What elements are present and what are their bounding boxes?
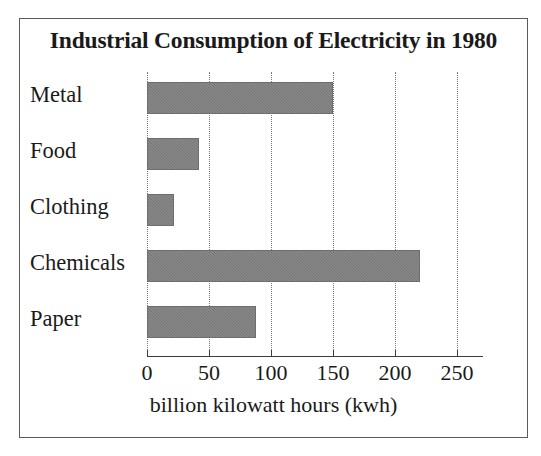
gridline-250	[457, 72, 458, 356]
x-tick-150	[333, 350, 334, 356]
chart-title: Industrial Consumption of Electricity in…	[19, 27, 528, 54]
x-tick-label-200: 200	[360, 360, 430, 386]
category-label-chemicals: Chemicals	[30, 250, 125, 276]
bar-clothing	[147, 194, 174, 226]
x-tick-50	[209, 350, 210, 356]
category-label-food: Food	[30, 138, 76, 164]
category-label-paper: Paper	[30, 306, 81, 332]
bar-food	[147, 138, 199, 170]
x-tick-0	[147, 350, 148, 356]
x-tick-100	[271, 350, 272, 356]
bar-paper	[147, 306, 256, 338]
x-tick-label-100: 100	[236, 360, 306, 386]
bar-metal	[147, 82, 333, 114]
category-label-metal: Metal	[30, 82, 82, 108]
x-tick-label-250: 250	[422, 360, 492, 386]
x-tick-label-0: 0	[112, 360, 182, 386]
plot-area	[147, 72, 457, 356]
chart-figure: Industrial Consumption of Electricity in…	[0, 0, 541, 456]
x-tick-250	[457, 350, 458, 356]
gridline-100	[271, 72, 272, 356]
bar-chemicals	[147, 250, 420, 282]
x-tick-label-150: 150	[298, 360, 368, 386]
category-label-clothing: Clothing	[30, 194, 109, 220]
x-tick-label-50: 50	[174, 360, 244, 386]
x-axis-line	[147, 356, 483, 357]
gridline-150	[333, 72, 334, 356]
x-tick-200	[395, 350, 396, 356]
gridline-200	[395, 72, 396, 356]
x-axis-title: billion kilowatt hours (kwh)	[19, 392, 528, 418]
